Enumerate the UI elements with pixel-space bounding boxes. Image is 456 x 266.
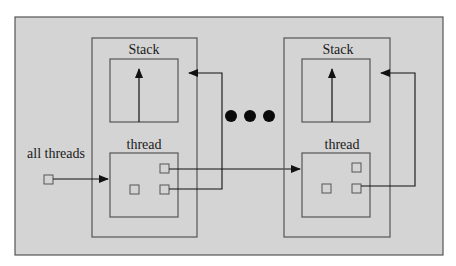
thread-label: thread [325,137,360,152]
thread-structure-diagram: Stack thread all threads Stack thread [0,0,456,266]
stack-label: Stack [322,42,353,57]
stack-label: Stack [128,42,159,57]
thread-label: thread [127,137,162,152]
ellipsis-icon [225,110,275,122]
diagram-frame [15,17,443,255]
all-threads-label: all threads [27,146,85,161]
